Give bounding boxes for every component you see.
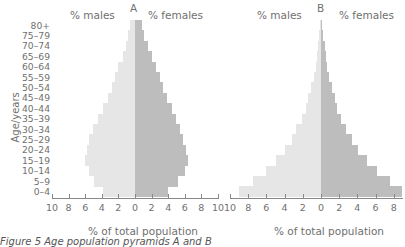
- x-tick: [376, 194, 377, 199]
- x-tick-label: 4: [277, 202, 293, 213]
- female-bar: [321, 134, 352, 145]
- female-bar: [321, 124, 346, 135]
- female-bar: [321, 72, 329, 83]
- x-tick: [168, 194, 169, 199]
- x-tick: [201, 194, 202, 199]
- x-tick-label: 4: [160, 202, 176, 213]
- age-label: 20–24: [0, 145, 50, 155]
- pyramid-b-males-header: % males: [257, 9, 302, 21]
- male-bar: [292, 134, 321, 145]
- male-bar: [302, 114, 321, 125]
- male-bar: [103, 103, 135, 114]
- female-bar: [321, 166, 377, 177]
- female-bar: [321, 176, 390, 187]
- male-bar: [253, 176, 321, 187]
- male-bar: [85, 155, 135, 166]
- age-label: 5–9: [0, 177, 50, 187]
- x-tick-label: 0: [313, 202, 329, 213]
- female-bar: [321, 30, 323, 41]
- x-tick-label: 8: [386, 202, 402, 213]
- female-bar: [321, 51, 326, 62]
- x-tick: [218, 194, 219, 199]
- x-tick: [52, 194, 53, 199]
- male-bar: [115, 72, 135, 83]
- x-tick: [394, 194, 395, 199]
- x-tick-label: 10: [222, 202, 238, 213]
- female-bar: [321, 103, 337, 114]
- x-tick-label: 4: [349, 202, 365, 213]
- x-tick: [85, 194, 86, 199]
- pyramid-a-females-header: % females: [148, 9, 203, 21]
- female-bar: [321, 186, 402, 197]
- x-tick-label: 2: [110, 202, 126, 213]
- x-tick: [118, 194, 119, 199]
- female-bar: [321, 82, 332, 93]
- x-tick-label: 8: [193, 202, 209, 213]
- male-bar: [285, 145, 321, 156]
- male-bar: [98, 114, 135, 125]
- female-bar: [321, 41, 325, 52]
- x-tick: [248, 194, 249, 199]
- female-bar: [321, 62, 327, 73]
- pyramid-b-x-axis-label: % of total population: [274, 225, 384, 237]
- male-bar: [306, 103, 321, 114]
- female-bar: [135, 176, 178, 187]
- female-bar: [321, 145, 358, 156]
- x-tick: [339, 194, 340, 199]
- female-bar: [135, 134, 183, 145]
- age-label: 70–74: [0, 41, 50, 51]
- male-bar: [89, 134, 135, 145]
- male-bar: [126, 41, 135, 52]
- x-tick-label: 6: [77, 202, 93, 213]
- female-bar: [321, 93, 335, 104]
- female-bar: [135, 82, 163, 93]
- male-bar: [112, 82, 135, 93]
- x-tick-label: 6: [258, 202, 274, 213]
- x-tick-label: 2: [331, 202, 347, 213]
- female-bar: [135, 41, 148, 52]
- male-bar: [94, 176, 135, 187]
- x-tick: [135, 194, 136, 199]
- female-bar: [135, 93, 167, 104]
- x-tick-label: 6: [368, 202, 384, 213]
- pyramid-a-title: A: [130, 2, 137, 14]
- female-bar: [135, 20, 142, 31]
- age-label: 30–34: [0, 125, 50, 135]
- x-tick: [185, 194, 186, 199]
- female-bar: [135, 51, 152, 62]
- female-bar: [135, 103, 172, 114]
- x-tick-label: 8: [240, 202, 256, 213]
- female-bar: [135, 124, 180, 135]
- age-label: 0–4: [0, 187, 50, 197]
- age-label: 35–39: [0, 114, 50, 124]
- x-tick-label: 10: [44, 202, 60, 213]
- x-tick-label: 6: [177, 202, 193, 213]
- male-bar: [296, 124, 321, 135]
- age-label: 10–14: [0, 166, 50, 176]
- male-bar: [239, 186, 321, 197]
- female-bar: [135, 155, 188, 166]
- x-tick: [285, 194, 286, 199]
- x-tick: [266, 194, 267, 199]
- male-bar: [308, 93, 321, 104]
- female-bar: [135, 145, 186, 156]
- male-bar: [276, 155, 322, 166]
- male-bar: [108, 93, 135, 104]
- male-bar: [87, 145, 135, 156]
- x-axis-line: [230, 198, 403, 199]
- female-bar: [135, 62, 156, 73]
- age-label: 55–59: [0, 73, 50, 83]
- pyramid-a-males-header: % males: [70, 9, 115, 21]
- x-tick-label: 2: [144, 202, 160, 213]
- x-tick-label: 4: [94, 202, 110, 213]
- x-tick: [303, 194, 304, 199]
- x-tick: [69, 194, 70, 199]
- male-bar: [128, 30, 135, 41]
- x-tick: [230, 194, 231, 199]
- x-tick-label: 8: [61, 202, 77, 213]
- male-bar: [93, 124, 135, 135]
- female-bar: [321, 114, 341, 125]
- figure-caption: Figure 5 Age population pyramids A and B: [0, 236, 212, 247]
- x-tick: [357, 194, 358, 199]
